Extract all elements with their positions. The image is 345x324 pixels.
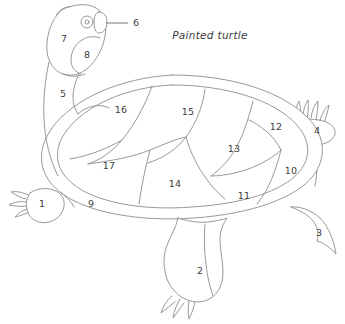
- label-8: 8: [84, 50, 90, 60]
- hind-limb-shape: [161, 218, 227, 319]
- label-10: 10: [285, 166, 298, 176]
- label-9: 9: [88, 199, 94, 209]
- label-12: 12: [270, 122, 283, 132]
- label-15: 15: [182, 107, 195, 117]
- page-title: Painted turtle: [172, 29, 248, 41]
- label-6: 6: [133, 18, 139, 28]
- label-4: 4: [314, 126, 320, 136]
- painted-turtle-figure: Painted turtle 1 2 3 4 5 6 7 8 9 10 11 1…: [0, 0, 345, 324]
- turtle-anatomy-drawing: [0, 0, 345, 324]
- label-14: 14: [169, 179, 182, 189]
- label-1: 1: [39, 199, 45, 209]
- label-17: 17: [103, 161, 116, 171]
- head-shape: [47, 5, 107, 77]
- label-16: 16: [115, 105, 128, 115]
- label-3: 3: [316, 228, 322, 238]
- carapace-outer-rim: [42, 75, 323, 219]
- label-13: 13: [228, 144, 241, 154]
- label-2: 2: [197, 266, 203, 276]
- label-5: 5: [60, 89, 66, 99]
- label-7: 7: [61, 34, 67, 44]
- tail-shape: [291, 207, 336, 254]
- label-11: 11: [238, 191, 251, 201]
